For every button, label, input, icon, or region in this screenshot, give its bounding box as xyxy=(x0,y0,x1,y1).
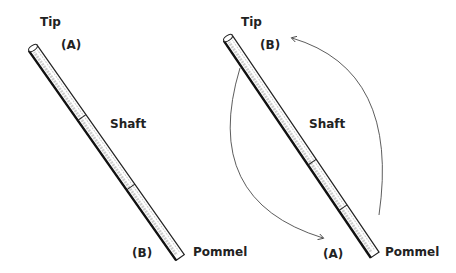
left-shaft-label: Shaft xyxy=(110,117,146,131)
right-tip-label: Tip xyxy=(241,15,262,29)
left-pommel-label: Pommel xyxy=(193,245,247,259)
right-end-a-label: (A) xyxy=(323,247,343,261)
right-shaft-label: Shaft xyxy=(309,117,345,131)
left-end-a-label: (A) xyxy=(61,38,81,52)
left-end-b-label: (B) xyxy=(132,246,152,260)
left-tip-label: Tip xyxy=(40,15,61,29)
diagram: Tip (A) Shaft (B) Pommel Tip (B) Shaft (… xyxy=(0,0,456,273)
right-pommel-label: Pommel xyxy=(385,245,439,259)
right-stick xyxy=(222,33,379,258)
left-stick xyxy=(27,43,184,260)
right-end-b-label: (B) xyxy=(260,38,280,52)
